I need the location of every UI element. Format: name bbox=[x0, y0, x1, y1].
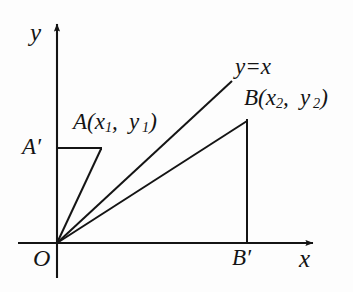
origin-label: O bbox=[33, 246, 50, 270]
point-a-label-tail: ) bbox=[149, 109, 157, 134]
point-a-label-head: A(x bbox=[73, 109, 105, 134]
x-axis-label: x bbox=[299, 246, 310, 271]
point-a-label: A(x1, y1) bbox=[73, 110, 157, 134]
y-axis-label: y bbox=[30, 20, 41, 45]
point-b-label-mid: , y bbox=[283, 85, 313, 110]
point-b-label: B(x2, y2) bbox=[244, 86, 328, 110]
line-equation-label: y=x bbox=[235, 55, 271, 78]
point-b-subscript-x: 2 bbox=[276, 95, 283, 111]
point-b-prime-label: B′ bbox=[232, 246, 251, 269]
point-b-label-tail: ) bbox=[320, 85, 328, 110]
point-a-label-mid: , y bbox=[112, 109, 142, 134]
point-b-label-head: B(x bbox=[244, 85, 276, 110]
point-a-prime-label: A′ bbox=[22, 135, 41, 158]
line-y-equals-x bbox=[57, 81, 232, 243]
figure-container: y x O A′ B′ A(x1, y1) B(x2, y2) y=x bbox=[0, 0, 353, 292]
point-a-subscript-x: 1 bbox=[105, 119, 112, 135]
